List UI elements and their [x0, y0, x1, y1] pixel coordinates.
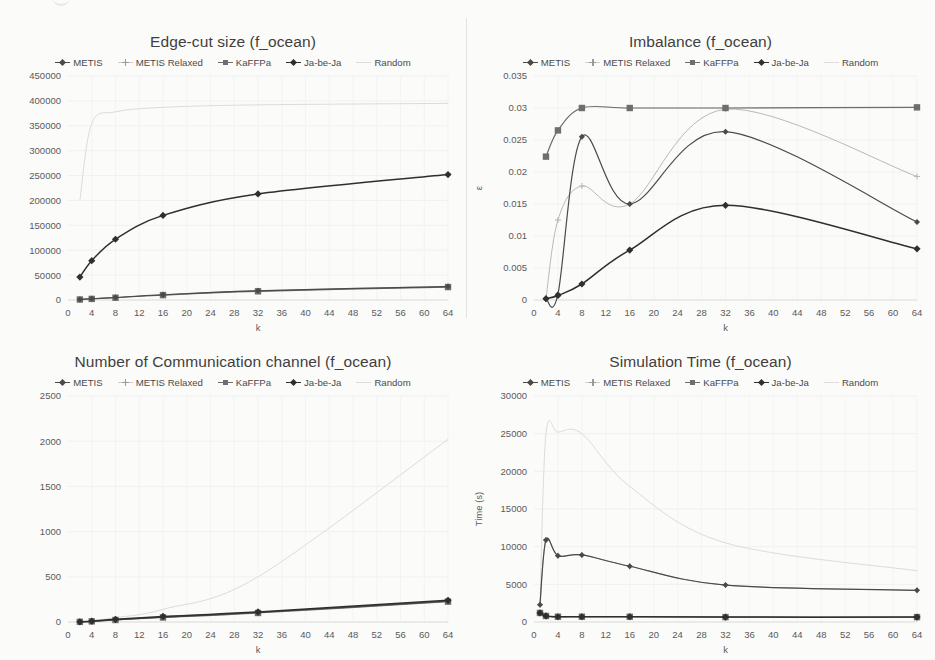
svg-text:32: 32 [253, 307, 264, 318]
legend-item-random[interactable]: Random [356, 377, 410, 388]
svg-text:64: 64 [912, 307, 923, 318]
legend-label: METIS Relaxed [136, 377, 203, 388]
random-marker-icon [356, 58, 371, 67]
ja-be-ja-marker-icon [754, 378, 769, 387]
chart-legend-imbalance: METIS METIS Relaxed KaFFPa Ja-be-Ja [466, 54, 935, 70]
svg-text:2500: 2500 [40, 390, 61, 401]
random-marker-icon [824, 378, 839, 387]
svg-text:300000: 300000 [29, 145, 61, 156]
svg-text:20000: 20000 [501, 466, 527, 477]
svg-text:12: 12 [134, 307, 145, 318]
svg-text:60: 60 [419, 307, 430, 318]
metis-marker-icon [523, 58, 538, 67]
svg-text:64: 64 [443, 629, 454, 640]
svg-text:16: 16 [158, 307, 169, 318]
legend-label: METIS [73, 377, 102, 388]
metis-relaxed-marker-icon [118, 378, 133, 387]
chart-panel-simulation-time: Simulation Time (f_ocean) METIS METIS Re… [466, 338, 935, 660]
svg-text:44: 44 [792, 629, 803, 640]
legend-item-metis-relaxed[interactable]: METIS Relaxed [585, 57, 670, 68]
legend-item-metis-relaxed[interactable]: METIS Relaxed [118, 377, 203, 388]
legend-item-kaffpa[interactable]: KaFFPa [685, 57, 738, 68]
svg-text:40: 40 [300, 307, 311, 318]
legend-label: Random [842, 377, 878, 388]
legend-item-kaffpa[interactable]: KaFFPa [685, 377, 738, 388]
metis-relaxed-marker-icon [585, 378, 600, 387]
svg-text:48: 48 [816, 629, 827, 640]
svg-text:0: 0 [531, 307, 536, 318]
ja-be-ja-marker-icon [286, 378, 301, 387]
svg-text:40: 40 [300, 629, 311, 640]
svg-text:20: 20 [648, 307, 659, 318]
legend-label: METIS Relaxed [603, 57, 670, 68]
svg-text:24: 24 [205, 629, 216, 640]
chart-legend-edge-cut: METIS METIS Relaxed KaFFPa Ja-be-Ja [0, 54, 466, 70]
svg-text:48: 48 [348, 307, 359, 318]
svg-text:16: 16 [158, 629, 169, 640]
svg-text:20: 20 [648, 629, 659, 640]
chart-panel-comm-channels: Number of Communication channel (f_ocean… [0, 338, 466, 660]
legend-item-random[interactable]: Random [824, 377, 878, 388]
legend-item-random[interactable]: Random [356, 57, 410, 68]
legend-item-metis-relaxed[interactable]: METIS Relaxed [585, 377, 670, 388]
legend-item-kaffpa[interactable]: KaFFPa [218, 377, 271, 388]
svg-text:2000: 2000 [40, 436, 61, 447]
legend-label: KaFFPa [703, 377, 738, 388]
legend-item-ja-be-ja[interactable]: Ja-be-Ja [754, 57, 809, 68]
svg-text:32: 32 [720, 629, 731, 640]
plot-comm-channels: 0500100015002000250004812162024283236404… [0, 390, 466, 660]
svg-text:0: 0 [531, 629, 536, 640]
svg-text:52: 52 [840, 307, 851, 318]
legend-item-metis[interactable]: METIS [523, 57, 570, 68]
svg-text:500: 500 [45, 571, 61, 582]
svg-text:28: 28 [696, 629, 707, 640]
kaffpa-marker-icon [685, 378, 700, 387]
legend-label: Ja-be-Ja [772, 57, 809, 68]
svg-text:0.02: 0.02 [509, 166, 528, 177]
svg-text:350000: 350000 [29, 120, 61, 131]
svg-text:52: 52 [371, 307, 382, 318]
svg-text:450000: 450000 [29, 70, 61, 81]
svg-text:10000: 10000 [501, 541, 527, 552]
svg-text:44: 44 [324, 629, 335, 640]
legend-item-metis-relaxed[interactable]: METIS Relaxed [118, 57, 203, 68]
svg-text:400000: 400000 [29, 95, 61, 106]
legend-label: Ja-be-Ja [304, 57, 341, 68]
chart-title-comm-channels: Number of Communication channel (f_ocean… [0, 338, 466, 372]
legend-label: METIS Relaxed [603, 377, 670, 388]
svg-text:k: k [723, 644, 728, 655]
svg-text:25000: 25000 [501, 428, 527, 439]
svg-text:12: 12 [601, 307, 612, 318]
legend-item-metis[interactable]: METIS [55, 57, 102, 68]
legend-item-ja-be-ja[interactable]: Ja-be-Ja [286, 57, 341, 68]
legend-item-ja-be-ja[interactable]: Ja-be-Ja [286, 377, 341, 388]
svg-text:20: 20 [181, 307, 192, 318]
legend-label: Ja-be-Ja [772, 377, 809, 388]
svg-text:64: 64 [912, 629, 923, 640]
svg-text:0: 0 [65, 629, 70, 640]
svg-text:4: 4 [555, 629, 560, 640]
svg-text:24: 24 [672, 307, 683, 318]
legend-item-metis[interactable]: METIS [55, 377, 102, 388]
legend-item-kaffpa[interactable]: KaFFPa [218, 57, 271, 68]
chart-title-simulation-time: Simulation Time (f_ocean) [466, 338, 935, 372]
legend-item-metis[interactable]: METIS [523, 377, 570, 388]
kaffpa-marker-icon [685, 58, 700, 67]
svg-text:0: 0 [65, 307, 70, 318]
svg-text:16: 16 [624, 629, 635, 640]
svg-text:40: 40 [768, 307, 779, 318]
svg-text:200000: 200000 [29, 195, 61, 206]
metis-relaxed-marker-icon [118, 58, 133, 67]
legend-label: METIS Relaxed [136, 57, 203, 68]
kaffpa-marker-icon [218, 58, 233, 67]
legend-label: KaFFPa [236, 57, 271, 68]
ja-be-ja-marker-icon [286, 58, 301, 67]
svg-text:40: 40 [768, 629, 779, 640]
svg-text:48: 48 [816, 307, 827, 318]
svg-text:100000: 100000 [29, 245, 61, 256]
legend-item-random[interactable]: Random [824, 57, 878, 68]
metis-marker-icon [55, 378, 70, 387]
svg-text:8: 8 [113, 307, 118, 318]
legend-item-ja-be-ja[interactable]: Ja-be-Ja [754, 377, 809, 388]
svg-text:4: 4 [555, 307, 560, 318]
